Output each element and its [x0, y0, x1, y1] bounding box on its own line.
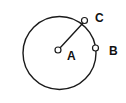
- geometry-canvas: A C B: [0, 0, 126, 103]
- point-label-a: A: [67, 49, 76, 63]
- geometry-figure: A C B: [0, 0, 126, 103]
- point-marker-b: [93, 45, 99, 51]
- radius-segment-a-to-c: [60, 23, 84, 49]
- point-label-c: C: [95, 11, 104, 25]
- point-label-b: B: [109, 44, 118, 58]
- point-marker-a: [55, 47, 61, 53]
- point-marker-c: [82, 18, 88, 24]
